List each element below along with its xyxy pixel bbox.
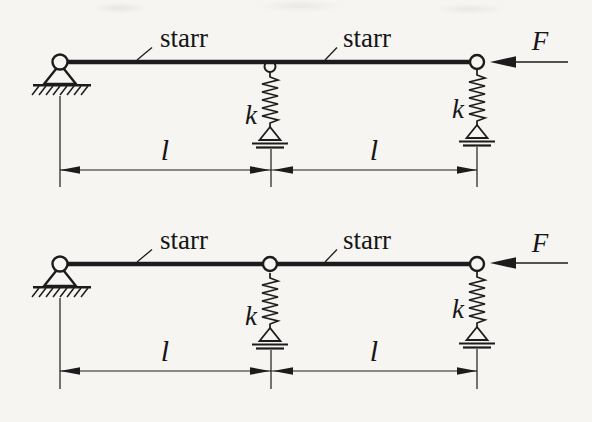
- rigid-label-left: starr: [160, 225, 208, 255]
- midspan-hinge: [263, 257, 277, 271]
- diagram-continuous-beam: starr starr F k k l l: [32, 23, 568, 187]
- leader-line: [325, 48, 337, 61]
- diagram-hinged-beams: starr starr F k k l l: [32, 225, 568, 389]
- right-end-pin: [470, 55, 484, 69]
- rigid-label-right: starr: [343, 225, 391, 255]
- rigid-label-right: starr: [343, 23, 391, 53]
- spring-right-label: k: [452, 294, 465, 324]
- leader-line: [325, 250, 337, 263]
- spring-right: [459, 272, 495, 348]
- mechanics-figure: starr starr F k k l l: [0, 0, 592, 422]
- spring-mid: [252, 72, 288, 148]
- force-label: F: [531, 228, 549, 258]
- spring-right-label: k: [452, 94, 465, 124]
- spring-right: [459, 70, 495, 146]
- force-arrowhead: [490, 56, 516, 68]
- span-right-label: l: [370, 334, 378, 367]
- span-left-label: l: [161, 334, 169, 367]
- leader-line: [137, 250, 152, 263]
- spring-mid-label: k: [245, 301, 258, 331]
- right-end-pin: [470, 257, 484, 271]
- spring-mid: [252, 273, 288, 349]
- span-left-label: l: [161, 133, 169, 166]
- figure-page: starr starr F k k l l: [0, 0, 592, 422]
- spring-mid-label: k: [245, 100, 258, 130]
- rigid-label-left: starr: [160, 23, 208, 53]
- leader-line: [137, 48, 152, 61]
- span-right-label: l: [370, 133, 378, 166]
- force-arrowhead: [490, 257, 516, 269]
- force-label: F: [531, 26, 549, 56]
